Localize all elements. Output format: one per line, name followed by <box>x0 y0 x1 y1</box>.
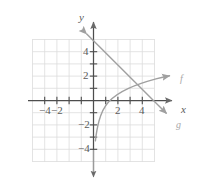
curve-label-f: f <box>180 74 183 84</box>
y-tick-label-pos4: 4 <box>83 46 89 57</box>
y-tick-label-neg4: −4 <box>78 143 90 154</box>
curve-label-g: g <box>176 120 181 130</box>
x-tick-label-pos4: 4 <box>139 105 145 116</box>
y-tick-label-pos2: 2 <box>83 70 89 81</box>
x-tick-label-neg4: −4 <box>39 105 51 116</box>
y-tick-label-neg2: −2 <box>78 119 90 130</box>
curve-f <box>95 76 169 141</box>
graph-figure: −4 −2 2 4 4 2 −2 −4 y x f g <box>0 0 201 190</box>
coordinate-plane <box>0 0 201 190</box>
x-tick-label-pos2: 2 <box>115 105 121 116</box>
y-axis-label: y <box>79 12 84 23</box>
x-tick-label-neg2: −2 <box>51 105 63 116</box>
x-axis-label: x <box>181 104 186 115</box>
